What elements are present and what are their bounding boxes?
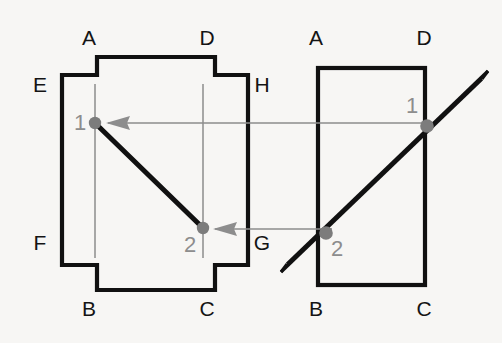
projection-arrowhead-2 — [213, 222, 237, 236]
front-label-D: D — [199, 26, 214, 49]
front-point-1-marker — [89, 117, 101, 129]
diagram-canvas: A D E H F G B C A D B C 1 2 1 2 — [0, 0, 502, 343]
front-view-group — [62, 57, 248, 290]
front-vertex-labels-group: A D E H F G B C — [33, 26, 270, 320]
front-view-outline — [62, 57, 248, 290]
side-label-D: D — [416, 26, 431, 49]
side-label-A: A — [309, 26, 323, 49]
front-label-B: B — [82, 297, 96, 320]
projection-diagram: A D E H F G B C A D B C 1 2 1 2 — [0, 0, 502, 343]
front-point-1-label: 1 — [74, 110, 86, 135]
side-point-1-marker — [420, 119, 434, 133]
front-point-2-label: 2 — [184, 232, 196, 257]
front-label-G: G — [254, 231, 270, 254]
projection-arrowhead-1 — [106, 116, 130, 130]
front-line-1-2 — [95, 123, 203, 228]
front-label-E: E — [33, 73, 47, 96]
front-line-segment-group — [95, 123, 203, 228]
front-label-C: C — [199, 297, 214, 320]
side-label-C: C — [416, 297, 431, 320]
front-label-F: F — [34, 231, 47, 254]
point-markers-group — [89, 117, 434, 240]
side-label-B: B — [309, 297, 323, 320]
side-point-2-label: 2 — [331, 236, 343, 261]
side-rod-edge-lower — [281, 79, 482, 272]
front-label-A: A — [82, 26, 96, 49]
front-label-H: H — [254, 73, 269, 96]
front-point-2-marker — [197, 222, 209, 234]
side-point-1-label: 1 — [406, 93, 418, 118]
side-rod-group — [281, 71, 488, 272]
